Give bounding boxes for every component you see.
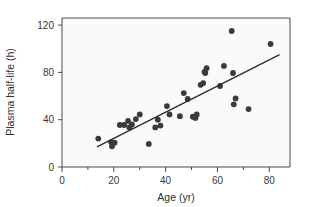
data-point	[129, 122, 135, 128]
data-point	[200, 80, 206, 86]
y-axis-title: Plasma half-life (h)	[4, 48, 16, 136]
y-tick-label: 40	[43, 114, 55, 125]
data-point	[233, 96, 239, 102]
plot-background	[62, 18, 290, 167]
data-point	[230, 70, 236, 76]
data-point	[229, 28, 235, 34]
y-axis-ticks: 04080120	[37, 20, 62, 173]
data-point	[167, 111, 173, 117]
data-point	[152, 124, 158, 130]
x-tick-label: 80	[264, 175, 276, 186]
y-tick-label: 0	[48, 162, 54, 173]
data-point	[137, 111, 143, 117]
x-tick-label: 20	[108, 175, 120, 186]
data-point	[204, 65, 210, 71]
data-point	[164, 103, 170, 109]
data-point	[194, 111, 200, 117]
y-tick-label: 120	[37, 20, 54, 31]
data-point	[95, 136, 101, 142]
data-point	[177, 113, 183, 119]
y-tick-label: 80	[43, 67, 55, 78]
data-point	[231, 101, 237, 107]
data-point	[246, 106, 252, 112]
x-tick-label: 40	[160, 175, 172, 186]
data-point	[112, 140, 118, 146]
x-tick-label: 60	[212, 175, 224, 186]
data-point	[181, 90, 187, 96]
x-tick-label: 0	[59, 175, 65, 186]
data-point	[158, 123, 164, 129]
data-point	[133, 116, 139, 122]
chart-canvas: 04080120 020406080 Age (yr) Plasma half-…	[0, 0, 311, 207]
data-point	[146, 141, 152, 147]
data-point	[221, 63, 227, 69]
x-axis-title: Age (yr)	[157, 191, 194, 203]
data-point	[268, 41, 274, 47]
scatter-plot-figure: 04080120 020406080 Age (yr) Plasma half-…	[0, 0, 311, 207]
